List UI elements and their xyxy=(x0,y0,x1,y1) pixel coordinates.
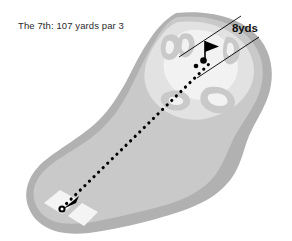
green-width-label: 8yds xyxy=(232,22,258,35)
hole-title-label: The 7th: 107 yards par 3 xyxy=(18,20,124,32)
hole-map-canvas xyxy=(0,0,292,241)
golf-hole-diagram: The 7th: 107 yards par 3 8yds xyxy=(0,0,292,241)
